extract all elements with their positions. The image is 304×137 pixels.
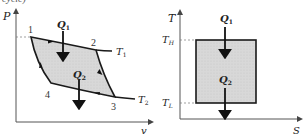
t1-label: T1	[116, 46, 127, 58]
tl-label: TL	[162, 97, 173, 109]
cycle-rectangle	[196, 40, 256, 103]
ts-diagram: T S TH TL Q1 Q2	[162, 12, 300, 136]
isotherm-t1	[96, 50, 112, 51]
q1-label: Q1	[57, 19, 70, 31]
isotherm-t2	[115, 97, 135, 99]
t-axis-label: T	[168, 12, 177, 25]
pv-diagram: P v 1 2 3 4 T1 T2 Q1 Q2	[2, 10, 151, 136]
point-1-label: 1	[28, 24, 33, 35]
p-axis-label: P	[2, 10, 11, 23]
point-4-label: 4	[45, 89, 50, 100]
s-axis-label: S	[293, 125, 300, 136]
th-label: TH	[162, 34, 175, 46]
point-2-label: 2	[91, 37, 96, 48]
point-3-label: 3	[111, 101, 116, 112]
t2-label: T2	[138, 94, 149, 106]
carnot-cycle-figure: P v 1 2 3 4 T1 T2 Q1 Q2	[0, 0, 304, 137]
ts-q1-label: Q1	[220, 13, 233, 25]
v-axis-label: v	[141, 125, 147, 136]
cycle-area	[31, 37, 115, 97]
